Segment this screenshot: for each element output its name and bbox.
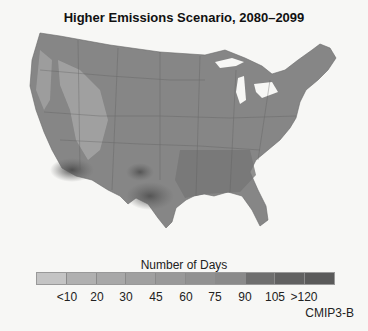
color-scale-bar [36,272,335,285]
source-credit: CMIP3-B [305,306,354,320]
color-bin [156,273,186,284]
color-bin [67,273,97,284]
color-bin [186,273,216,284]
legend-title: Number of Days [0,258,368,272]
color-bin [37,273,67,284]
tick-label: 75 [208,290,221,304]
tick-label: >120 [290,290,317,304]
color-bin [246,273,276,284]
tick-label: 20 [90,290,103,304]
tick-label: 105 [265,290,285,304]
legend-ticks: <10 20 30 45 60 75 90 105 >120 [0,290,368,306]
color-bin [97,273,127,284]
color-bin [305,273,334,284]
tick-label: 45 [149,290,162,304]
color-bin [126,273,156,284]
color-bin [275,273,305,284]
us-map [0,0,368,260]
color-bin [216,273,246,284]
tick-label: 30 [119,290,132,304]
tick-label: 60 [179,290,192,304]
tick-label: <10 [57,290,77,304]
tick-label: 90 [238,290,251,304]
